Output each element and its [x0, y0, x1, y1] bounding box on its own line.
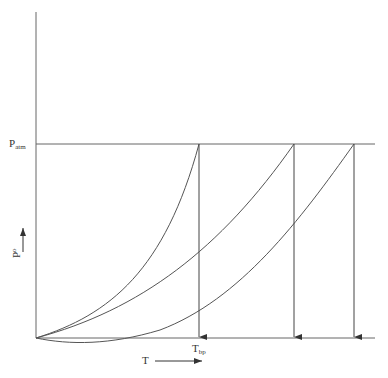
patm-label: Patm [9, 137, 26, 151]
tbp-sub: bp [199, 348, 206, 356]
p-axis-label: Po [10, 248, 22, 258]
tbp-main: T [192, 342, 199, 354]
curve-1 [36, 144, 199, 338]
patm-sub: atm [15, 143, 26, 151]
curve-2 [36, 144, 294, 338]
t-axis-label: T [142, 354, 149, 366]
p-main: P [10, 252, 22, 258]
vapor-pressure-diagram [0, 0, 388, 378]
tbp-label: Tbp [192, 342, 206, 356]
p-sup: o [10, 248, 18, 252]
curve-3 [36, 144, 354, 343]
